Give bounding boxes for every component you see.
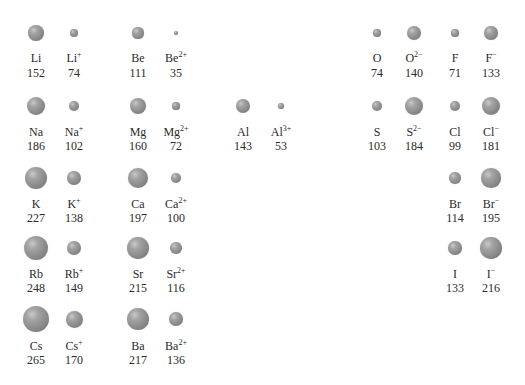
cs-ion-sphere-icon bbox=[66, 311, 83, 328]
element-symbol: Ca bbox=[131, 197, 144, 211]
ionic-radii-diagram: Li152Li+74Be111Be2+35O74O2−140F71F−133Na… bbox=[0, 0, 525, 385]
cl-ion-sphere-icon bbox=[482, 97, 500, 115]
sr-ion-radius-value: 116 bbox=[154, 282, 198, 295]
o-ion-sphere-icon bbox=[407, 26, 421, 40]
li-ion-sphere-icon bbox=[70, 29, 77, 36]
ion-charge: + bbox=[79, 124, 84, 133]
element-symbol: K bbox=[32, 197, 41, 211]
f-ion-label: F− bbox=[469, 52, 513, 65]
ion-charge: 2+ bbox=[178, 196, 187, 205]
element-symbol: Al bbox=[237, 125, 249, 139]
rb-ion-label: Rb+ bbox=[52, 268, 96, 281]
element-symbol: Sr bbox=[166, 267, 177, 281]
element-symbol: Cs bbox=[30, 339, 43, 353]
ion-charge: + bbox=[79, 266, 84, 275]
al-ion-sphere-icon bbox=[278, 103, 283, 108]
ba-ion-sphere-icon bbox=[169, 312, 183, 326]
element-symbol: Rb bbox=[29, 267, 43, 281]
o-ion-label: O2− bbox=[392, 52, 436, 65]
f-ion-radius-value: 133 bbox=[469, 67, 513, 80]
ion-charge: + bbox=[78, 338, 83, 347]
element-symbol: Mg bbox=[130, 125, 147, 139]
k-atom-sphere-icon bbox=[25, 167, 48, 190]
cs-atom-sphere-icon bbox=[23, 306, 50, 333]
ion-charge: 2+ bbox=[178, 338, 187, 347]
rb-atom-sphere-icon bbox=[24, 236, 49, 261]
element-symbol: Al bbox=[271, 125, 283, 139]
element-symbol: Be bbox=[131, 51, 144, 65]
br-ion-label: Br− bbox=[469, 198, 513, 211]
rb-ion-sphere-icon bbox=[67, 241, 82, 256]
ba-ion-label: Ba2+ bbox=[154, 340, 198, 353]
element-symbol: I bbox=[453, 267, 457, 281]
ion-charge: − bbox=[495, 196, 500, 205]
mg-atom-sphere-icon bbox=[130, 98, 146, 114]
s-ion-sphere-icon bbox=[405, 97, 423, 115]
o-atom-sphere-icon bbox=[373, 29, 380, 36]
element-symbol: Cl bbox=[483, 125, 494, 139]
ion-charge: 2+ bbox=[180, 124, 189, 133]
k-ion-radius-value: 138 bbox=[52, 212, 96, 225]
f-ion-sphere-icon bbox=[484, 26, 497, 39]
rb-ion-radius-value: 149 bbox=[52, 282, 96, 295]
i-atom-sphere-icon bbox=[448, 241, 461, 254]
element-symbol: Mg bbox=[163, 125, 180, 139]
al-ion-label: Al3+ bbox=[259, 126, 303, 139]
element-symbol: O bbox=[405, 51, 414, 65]
br-ion-sphere-icon bbox=[481, 168, 501, 188]
li-ion-radius-value: 74 bbox=[52, 67, 96, 80]
cl-atom-sphere-icon bbox=[450, 101, 460, 111]
ion-charge: 2− bbox=[414, 50, 423, 59]
element-symbol: Cl bbox=[449, 125, 460, 139]
ion-charge: 2+ bbox=[178, 50, 187, 59]
element-symbol: S bbox=[374, 125, 381, 139]
ion-charge: − bbox=[494, 124, 499, 133]
element-symbol: Ca bbox=[165, 197, 178, 211]
li-ion-label: Li+ bbox=[52, 52, 96, 65]
element-symbol: Ba bbox=[165, 339, 178, 353]
i-ion-label: I− bbox=[469, 268, 513, 281]
element-symbol: Li bbox=[31, 51, 42, 65]
na-ion-label: Na+ bbox=[52, 126, 96, 139]
element-symbol: Br bbox=[483, 197, 495, 211]
ion-charge: 2− bbox=[413, 124, 422, 133]
li-atom-sphere-icon bbox=[28, 25, 43, 40]
be-ion-radius-value: 35 bbox=[154, 67, 198, 80]
ca-ion-label: Ca2+ bbox=[154, 198, 198, 211]
o-ion-radius-value: 140 bbox=[392, 67, 436, 80]
i-ion-radius-value: 216 bbox=[469, 282, 513, 295]
sr-atom-sphere-icon bbox=[127, 237, 149, 259]
mg-ion-sphere-icon bbox=[172, 102, 179, 109]
s-ion-label: S2− bbox=[392, 126, 436, 139]
al-atom-sphere-icon bbox=[236, 99, 250, 113]
cs-ion-label: Cs+ bbox=[52, 340, 96, 353]
na-ion-radius-value: 102 bbox=[52, 140, 96, 153]
be-atom-sphere-icon bbox=[132, 27, 143, 38]
element-symbol: Br bbox=[449, 197, 461, 211]
s-ion-radius-value: 184 bbox=[392, 140, 436, 153]
cl-ion-radius-value: 181 bbox=[469, 140, 513, 153]
ca-atom-sphere-icon bbox=[128, 168, 148, 188]
mg-ion-label: Mg2+ bbox=[154, 126, 198, 139]
ion-charge: − bbox=[491, 266, 496, 275]
element-symbol: K bbox=[67, 197, 76, 211]
ba-atom-sphere-icon bbox=[127, 308, 149, 330]
element-symbol: F bbox=[452, 51, 459, 65]
i-ion-sphere-icon bbox=[480, 237, 502, 259]
br-ion-radius-value: 195 bbox=[469, 212, 513, 225]
ba-ion-radius-value: 136 bbox=[154, 354, 198, 367]
br-atom-sphere-icon bbox=[449, 172, 460, 183]
ion-charge: 2+ bbox=[177, 266, 186, 275]
cs-ion-radius-value: 170 bbox=[52, 354, 96, 367]
ion-charge: − bbox=[492, 50, 497, 59]
mg-ion-radius-value: 72 bbox=[154, 140, 198, 153]
ion-charge: + bbox=[76, 196, 81, 205]
element-symbol: Li bbox=[66, 51, 77, 65]
k-ion-sphere-icon bbox=[67, 171, 81, 185]
cl-ion-label: Cl− bbox=[469, 126, 513, 139]
k-ion-label: K+ bbox=[52, 198, 96, 211]
f-atom-sphere-icon bbox=[451, 29, 458, 36]
element-symbol: O bbox=[373, 51, 382, 65]
element-symbol: Na bbox=[29, 125, 43, 139]
na-atom-sphere-icon bbox=[27, 97, 46, 116]
